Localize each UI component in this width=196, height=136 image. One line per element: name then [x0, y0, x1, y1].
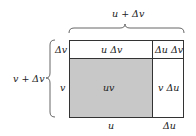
- row-label-bottom: v: [60, 83, 65, 93]
- cell-label-top-left: u Δv: [101, 45, 122, 55]
- cell-label-bottom-right: v Δu: [158, 83, 179, 93]
- top-label: u + Δv: [112, 9, 144, 19]
- left-label: v + Δv: [13, 74, 45, 84]
- col-label-left: u: [108, 121, 114, 131]
- cell-label-bottom-left: uv: [103, 83, 115, 93]
- row-label-top: Δv: [55, 45, 67, 55]
- cell-label-top-right: Δu Δv: [155, 45, 183, 55]
- left-brace: [46, 40, 55, 117]
- top-brace: [69, 24, 184, 33]
- col-label-right: Δu: [163, 121, 176, 131]
